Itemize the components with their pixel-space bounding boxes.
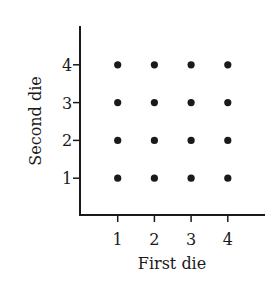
- x-tick-label: 2: [149, 230, 159, 249]
- x-tick-label: 4: [223, 230, 233, 249]
- axes: [79, 26, 265, 216]
- data-point: [114, 61, 121, 68]
- x-tick-label: 3: [186, 230, 196, 249]
- dice-scatter-chart: 1234 1234 First die Second die: [0, 0, 272, 284]
- y-axis-title: Second die: [26, 76, 45, 165]
- data-point: [114, 137, 121, 144]
- data-point: [151, 61, 158, 68]
- data-point: [151, 175, 158, 182]
- y-tick-label: 1: [62, 169, 72, 188]
- data-point: [224, 61, 231, 68]
- data-points: [114, 61, 231, 182]
- x-tick-label: 1: [113, 230, 123, 249]
- data-point: [224, 175, 231, 182]
- data-point: [188, 61, 195, 68]
- data-point: [151, 137, 158, 144]
- x-axis-title: First die: [138, 254, 206, 273]
- y-tick-label: 4: [62, 56, 72, 75]
- data-point: [188, 137, 195, 144]
- data-point: [224, 99, 231, 106]
- data-point: [188, 175, 195, 182]
- y-tick-label: 3: [62, 94, 72, 113]
- x-ticks: 1234: [113, 215, 233, 249]
- y-tick-label: 2: [62, 131, 72, 150]
- data-point: [151, 99, 158, 106]
- data-point: [224, 137, 231, 144]
- data-point: [114, 99, 121, 106]
- data-point: [114, 175, 121, 182]
- y-ticks: 1234: [62, 56, 80, 188]
- data-point: [188, 99, 195, 106]
